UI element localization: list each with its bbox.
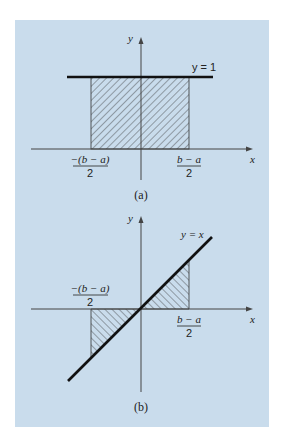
left-bound-numerator-b: −(b − a) [71,282,110,295]
figure: y x y = 1 −(b − a) 2 b − a 2 (a) y x y =… [0,0,285,446]
y-axis-label-a: y [127,32,133,44]
caption-a: (a) [134,188,147,202]
right-bound-denominator-b: 2 [186,327,192,339]
right-bound-numerator-b: b − a [177,313,201,325]
right-bound-denominator-a: 2 [186,167,192,179]
right-bound-numerator-a: b − a [177,153,201,165]
curve-label-a: y = 1 [192,61,216,73]
curve-label-b: y = x [180,228,204,240]
y-axis-label-b: y [127,212,133,224]
x-axis-label-a: x [249,153,255,165]
caption-b: (b) [134,400,148,414]
x-axis-label-b: x [249,313,255,325]
left-bound-denominator-a: 2 [87,167,93,179]
left-bound-denominator-b: 2 [87,296,93,308]
left-bound-numerator-a: −(b − a) [71,153,110,166]
shaded-region-a [91,77,189,149]
